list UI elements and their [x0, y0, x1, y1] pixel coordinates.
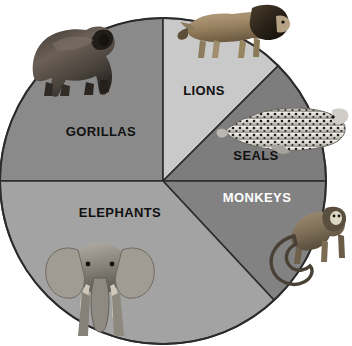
pie-chart-figure: GORILLASLIONSSEALSMONKEYSELEPHANTS: [0, 0, 352, 346]
pie-chart-svg: [0, 0, 352, 346]
